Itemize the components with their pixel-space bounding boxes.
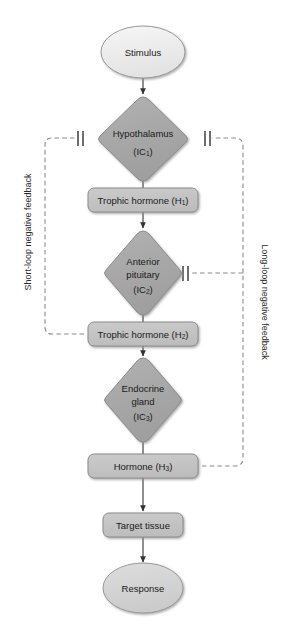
node-hormone-h3[interactable]: Hormone (H3) <box>88 454 198 478</box>
flowchart-diagram: Stimulus Hypothalamus (IC1) Trophic horm… <box>0 0 286 627</box>
node-target-tissue[interactable]: Target tissue <box>103 513 183 537</box>
node-anterior-pituitary-label-line1: Anterior <box>126 256 159 267</box>
node-trophic-hormone-h1[interactable]: Trophic hormone (H1) <box>88 188 198 212</box>
node-endocrine-gland-label-line1: Endocrine <box>122 383 165 394</box>
node-anterior-pituitary-label-line2: pituitary <box>126 269 160 280</box>
node-endocrine-gland-sublabel: (IC3) <box>133 411 153 423</box>
node-target-tissue-label: Target tissue <box>116 520 170 531</box>
node-hypothalamus[interactable]: Hypothalamus (IC1) <box>99 97 188 181</box>
node-anterior-pituitary[interactable]: Anterior pituitary (IC2) <box>105 231 182 315</box>
long-loop-feedback-label-group: Long-loop negative feedback <box>260 244 270 360</box>
short-loop-feedback-label: Short-loop negative feedback <box>23 173 33 291</box>
node-endocrine-gland-label-line2: gland <box>131 396 154 407</box>
node-response-label: Response <box>122 583 165 594</box>
inhibition-bars-hypothalamus-left <box>78 131 83 146</box>
long-loop-feedback-label: Long-loop negative feedback <box>260 244 270 360</box>
long-loop-feedback-path <box>189 138 243 466</box>
node-endocrine-gland[interactable]: Endocrine gland (IC3) <box>105 358 182 442</box>
node-response[interactable]: Response <box>103 563 183 613</box>
node-stimulus[interactable]: Stimulus <box>101 26 185 78</box>
node-hypothalamus-sublabel: (IC1) <box>133 146 153 158</box>
short-loop-feedback-label-group: Short-loop negative feedback <box>23 173 33 291</box>
node-hypothalamus-label: Hypothalamus <box>113 128 174 139</box>
node-trophic-hormone-h1-label: Trophic hormone (H1) <box>98 195 189 207</box>
node-trophic-hormone-h2-label: Trophic hormone (H2) <box>98 329 189 341</box>
node-trophic-hormone-h2[interactable]: Trophic hormone (H2) <box>88 322 198 346</box>
node-hormone-h3-label: Hormone (H3) <box>114 461 173 473</box>
node-stimulus-label: Stimulus <box>125 47 162 58</box>
short-loop-feedback-path <box>45 138 84 334</box>
inhibition-bars-anterior-pituitary-right <box>183 266 188 281</box>
inhibition-bars-hypothalamus-right <box>205 131 210 146</box>
node-anterior-pituitary-sublabel: (IC2) <box>133 284 153 296</box>
